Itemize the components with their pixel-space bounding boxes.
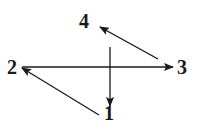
node-2-label: 2 <box>7 57 17 77</box>
edge-3-to-4-arrow <box>100 27 158 59</box>
node-4-label: 4 <box>79 11 89 31</box>
node-1-label: 1 <box>104 103 114 123</box>
edge-1-to-2-arrow <box>22 68 99 115</box>
edges-layer <box>0 0 199 129</box>
node-3-label: 3 <box>177 57 187 77</box>
directed-graph-diagram: 4 2 3 1 <box>0 0 199 129</box>
